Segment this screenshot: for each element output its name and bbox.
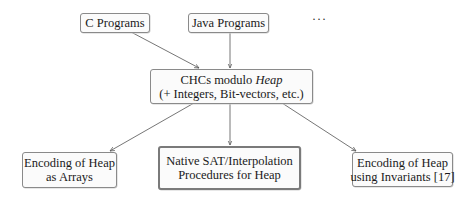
chcs-heap-line1: CHCs modulo Heap bbox=[180, 73, 282, 87]
c-programs-label: C Programs bbox=[85, 16, 144, 30]
c-programs-node: C Programs bbox=[80, 13, 150, 33]
java-programs-node: Java Programs bbox=[188, 13, 269, 33]
invariants-encoding-node: Encoding of Heap using Invariants [17] bbox=[352, 152, 453, 187]
edge-center-to-arrays bbox=[110, 103, 194, 151]
edge-c-to-center bbox=[131, 32, 199, 68]
native-procedures-node: Native SAT/Interpolation Procedures for … bbox=[158, 146, 301, 190]
chcs-heap-line2: (+ Integers, Bit-vectors, etc.) bbox=[159, 87, 304, 101]
chcs-heap-node: CHCs modulo Heap (+ Integers, Bit-vector… bbox=[150, 69, 313, 104]
java-programs-label: Java Programs bbox=[192, 16, 265, 30]
arrays-encoding-node: Encoding of Heap as Arrays bbox=[22, 152, 117, 188]
edge-center-to-invariants bbox=[282, 103, 356, 151]
more-sources-ellipsis: ··· bbox=[312, 12, 327, 27]
